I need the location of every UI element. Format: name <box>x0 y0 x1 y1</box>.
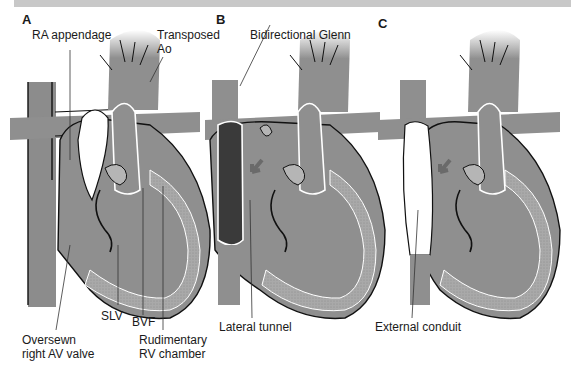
label-bidirectional-glenn: Bidirectional Glenn <box>250 28 351 42</box>
label-transposed-ao-line1: Transposed <box>157 28 220 42</box>
label-lateral-tunnel: Lateral tunnel <box>219 320 292 334</box>
label-ra-appendage: RA appendage <box>32 28 111 42</box>
panel-letter-c: C <box>378 16 387 31</box>
label-transposed-ao-line2: Ao <box>157 42 172 56</box>
heart-diagrams <box>0 0 586 369</box>
panel-letter-a: A <box>22 12 31 27</box>
panel-a-heart <box>10 30 210 330</box>
label-external-conduit: External conduit <box>375 320 461 334</box>
panel-letter-b: B <box>216 12 225 27</box>
label-oversewn-line1: Oversewn <box>22 333 76 347</box>
label-rudimentary-line1: Rudimentary <box>139 333 207 347</box>
label-slv: SLV <box>101 309 123 323</box>
panel-c-heart <box>378 30 560 318</box>
label-oversewn-line2: right AV valve <box>22 347 94 361</box>
panel-b-heart <box>205 25 385 318</box>
label-rudimentary-line2: RV chamber <box>139 347 205 361</box>
label-bvf: BVF <box>132 315 155 329</box>
